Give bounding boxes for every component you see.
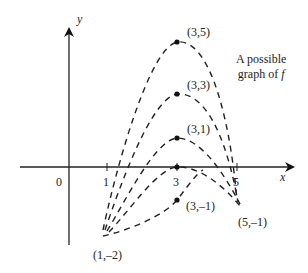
point-3-1: [174, 135, 179, 140]
y-axis-label: y: [77, 12, 82, 27]
graph-canvas: [0, 0, 308, 273]
point-3-neg1: [174, 197, 179, 202]
x-tick-label-5: 5: [233, 175, 239, 190]
point-label-5-neg1: (5,–1): [238, 215, 267, 230]
x-tick-label-1: 1: [103, 175, 109, 190]
graph-caption: A possible graph of f: [236, 52, 286, 82]
point-label-1-neg2: (1,–2): [93, 248, 122, 263]
x-tick-label-3: 3: [173, 175, 179, 190]
caption-text: graph of: [238, 67, 281, 81]
point-3-5: [174, 39, 179, 44]
point-label-3-1: (3,1): [187, 122, 210, 137]
caption-line-1: A possible: [236, 52, 286, 67]
x-axis-label: x: [280, 170, 285, 185]
caption-function-name: f: [281, 67, 284, 81]
point-label-3-neg1: (3,–1): [186, 199, 215, 214]
caption-line-2: graph of f: [236, 67, 286, 82]
point-3-3: [174, 91, 179, 96]
point-label-3-5: (3,5): [187, 25, 210, 40]
point-3-0: [174, 164, 179, 169]
point-label-3-3: (3,3): [187, 78, 210, 93]
curve-peak-5: [103, 42, 237, 230]
curve-peak-3: [105, 94, 238, 230]
origin-label: 0: [56, 175, 62, 190]
